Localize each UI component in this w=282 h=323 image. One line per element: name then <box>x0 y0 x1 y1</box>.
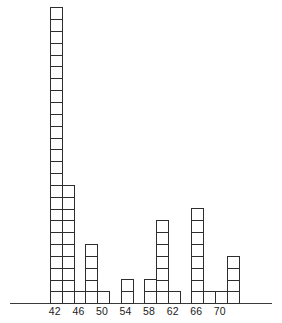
x-tick-label: 42 <box>43 305 67 317</box>
unit-square <box>191 244 204 257</box>
unit-square <box>227 279 240 292</box>
unit-square <box>191 256 204 269</box>
unit-square <box>50 114 63 127</box>
unit-square <box>156 267 169 280</box>
unit-square <box>156 256 169 269</box>
unit-square <box>227 267 240 280</box>
unit-square <box>85 244 98 257</box>
unit-square <box>50 43 63 56</box>
unit-square <box>191 208 204 221</box>
unit-square <box>62 256 75 269</box>
unit-square <box>121 279 134 292</box>
histogram-chart: 4246505458626670 <box>0 0 282 323</box>
unit-square <box>50 78 63 91</box>
unit-square <box>50 31 63 44</box>
unit-square <box>62 208 75 221</box>
x-tick-label: 54 <box>114 305 138 317</box>
unit-square <box>156 220 169 233</box>
x-tick-label: 70 <box>208 305 232 317</box>
unit-square <box>227 291 240 304</box>
x-tick-label: 50 <box>90 305 114 317</box>
unit-square <box>156 232 169 245</box>
unit-square <box>50 7 63 20</box>
unit-square <box>50 125 63 138</box>
unit-square <box>50 137 63 150</box>
unit-square <box>168 291 181 304</box>
x-tick-label: 66 <box>184 305 208 317</box>
unit-square <box>62 232 75 245</box>
unit-square <box>121 291 134 304</box>
unit-square <box>62 196 75 209</box>
x-tick-label: 62 <box>161 305 185 317</box>
unit-square <box>62 244 75 257</box>
unit-square <box>50 19 63 32</box>
unit-square <box>62 220 75 233</box>
unit-square <box>50 149 63 162</box>
unit-square <box>62 185 75 198</box>
x-tick-label: 58 <box>137 305 161 317</box>
unit-square <box>50 161 63 174</box>
unit-square <box>191 232 204 245</box>
unit-square <box>50 102 63 115</box>
unit-square <box>191 267 204 280</box>
unit-square <box>50 54 63 67</box>
unit-square <box>62 267 75 280</box>
unit-square <box>227 256 240 269</box>
unit-square <box>191 220 204 233</box>
x-tick-label: 46 <box>66 305 90 317</box>
unit-square <box>50 90 63 103</box>
unit-square <box>50 66 63 79</box>
unit-square <box>85 256 98 269</box>
unit-square <box>156 244 169 257</box>
unit-square <box>85 267 98 280</box>
unit-square <box>97 291 110 304</box>
